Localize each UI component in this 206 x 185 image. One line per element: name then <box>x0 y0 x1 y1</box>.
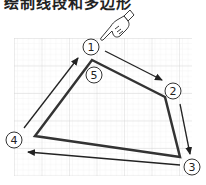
svg-text:3: 3 <box>189 161 196 174</box>
step-marker-2: 2 <box>165 83 181 99</box>
polygon-diagram: 1 2 3 4 5 <box>0 0 206 185</box>
step-marker-5: 5 <box>86 67 102 83</box>
svg-text:5: 5 <box>91 69 98 82</box>
step-marker-1: 1 <box>83 39 99 55</box>
svg-text:4: 4 <box>11 134 18 147</box>
svg-text:2: 2 <box>170 85 177 98</box>
step-marker-4: 4 <box>6 132 22 148</box>
pointing-hand-icon <box>101 10 134 40</box>
step-marker-3: 3 <box>184 159 200 175</box>
svg-text:1: 1 <box>88 41 95 54</box>
